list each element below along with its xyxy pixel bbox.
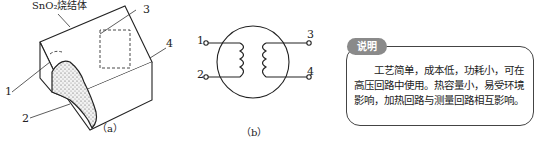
- terminal-1: 1: [197, 35, 204, 46]
- callout-3: 3: [143, 4, 150, 15]
- terminal-3: 3: [307, 29, 314, 40]
- material-label: SnO₂烧结体: [32, 1, 88, 11]
- caption-b: （b）: [241, 124, 267, 139]
- callout-1: 1: [5, 86, 12, 97]
- callout-4: 4: [166, 38, 173, 49]
- terminal-4: 4: [307, 66, 314, 77]
- callout-2: 2: [22, 113, 29, 124]
- note-text: 工艺简单，成本低，功耗小，可在高压回路中使用。热容量小，易受环境影响，加热回路与…: [354, 63, 530, 108]
- sintered-block: [40, 6, 152, 130]
- caption-a: （a）: [97, 120, 123, 135]
- note-tag: 说明: [347, 38, 387, 55]
- terminal-2: 2: [197, 69, 204, 80]
- sensor-symbol-b: [204, 26, 311, 98]
